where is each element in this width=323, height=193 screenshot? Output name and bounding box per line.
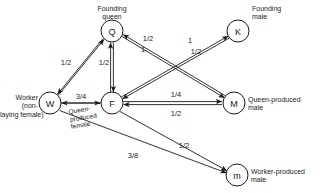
node-m-upper-glyph: M xyxy=(230,99,238,109)
edge-weight-w-m-small: 3/8 xyxy=(128,151,138,160)
edge-q-m xyxy=(122,35,226,98)
node-w-glyph: W xyxy=(46,99,55,109)
edge-f-m xyxy=(124,102,223,105)
node-q-glyph: Q xyxy=(108,27,115,37)
edge-f-q xyxy=(111,43,114,92)
edge-weight-f-m-small: 1/2 xyxy=(179,141,189,150)
caption-queen-produced-male: Queen-produced male xyxy=(248,96,322,113)
caption-founding-queen: Founding queen xyxy=(78,5,146,22)
edge-weight-f-m-upper: 1/4 xyxy=(171,90,181,99)
edge-weight-w-q: 1/2 xyxy=(61,58,71,67)
edge-w-q xyxy=(57,39,104,96)
edge-weight-q-m-lower: 1 xyxy=(141,45,145,54)
node-m-lower[interactable]: m xyxy=(226,164,248,186)
edge-weight-f-k-upper: 1 xyxy=(188,36,192,45)
node-k[interactable]: K xyxy=(227,20,249,42)
edge-w-to-q-line xyxy=(58,39,104,95)
node-m-lower-glyph: m xyxy=(233,171,241,181)
edge-f-to-m-lower-line xyxy=(120,112,227,171)
caption-worker-produced-male: Worker-produced male xyxy=(251,168,323,185)
edge-weight-f-m-lower: 1/2 xyxy=(171,109,181,118)
node-q[interactable]: Q xyxy=(101,20,123,42)
node-m-upper[interactable]: M xyxy=(223,92,245,114)
edge-weight-f-k-lower: 1/2 xyxy=(191,47,201,56)
caption-worker: Worker (non- laying female) xyxy=(0,94,38,119)
caption-founding-male: Founding male xyxy=(252,5,318,22)
edge-weight-f-q: 1/2 xyxy=(99,58,109,67)
edge-weight-w-f: 3/4 xyxy=(76,92,86,101)
node-k-glyph: K xyxy=(235,27,241,37)
relatedness-diagram: 1/2 1/2 1/2 1 1 1/2 3/4 xyxy=(0,0,323,193)
edge-weight-q-m-upper: 1/2 xyxy=(143,34,153,43)
